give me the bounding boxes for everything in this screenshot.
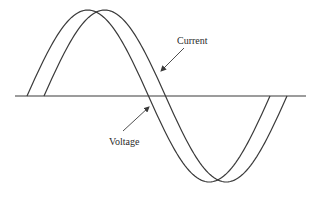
- sine-wave-diagram: [0, 0, 314, 197]
- voltage-label: Voltage: [109, 136, 139, 147]
- current-arrow-icon: [161, 48, 184, 71]
- current-label: Current: [177, 35, 208, 46]
- voltage-arrow-icon: [123, 107, 149, 131]
